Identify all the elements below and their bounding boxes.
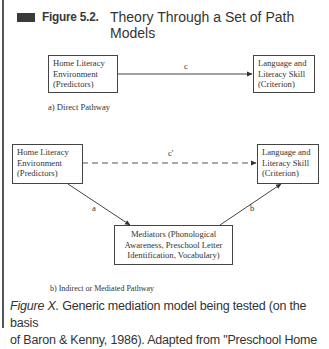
caption-line1: Figure X. Generic mediation model being … [10,298,328,332]
figure-caption: Figure X. Generic mediation model being … [10,298,328,349]
panel-b-caption: b) Indirect or Mediated Pathway [50,284,154,293]
predictor-line: Environment [17,158,78,169]
path-a-label: a [92,203,96,213]
criterion-line: Literacy Skill [258,69,310,80]
path-c-prime-label: c' [168,148,173,158]
criterion-line: (Criterion) [258,79,310,90]
criterion-line: Literacy Skill [262,158,314,169]
mediator-box: Mediators (Phonological Awareness, Presc… [114,225,233,265]
panel-b-criterion-box: Language and Literacy Skill (Criterion) [257,144,319,184]
caption-label: Figure X. [10,299,59,313]
panel-a-predictor-box: Home Literacy Environment (Predictors) [48,55,118,93]
caption-line2: of Baron & Kenny, 1986). Adapted from "P… [10,332,328,349]
predictor-line: Environment [53,69,113,80]
path-a-arrow [68,184,130,225]
path-b-label: b [250,203,254,213]
predictor-line: Home Literacy [53,58,113,69]
panel-b-predictor-box: Home Literacy Environment (Predictors) [12,144,83,184]
path-c-label: c [184,61,188,71]
panel-a-caption: a) Direct Pathway [48,102,110,112]
predictor-line: (Predictors) [53,79,113,90]
predictor-line: (Predictors) [17,168,78,179]
criterion-line: Language and [262,147,314,158]
panel-a-criterion-box: Language and Literacy Skill (Criterion) [253,55,315,93]
mediator-line: Identification, Vocabulary) [119,250,228,261]
mediator-line: Awareness, Preschool Letter [119,240,228,251]
predictor-line: Home Literacy [17,147,78,158]
mediator-line: Mediators (Phonological [119,229,228,240]
criterion-line: Language and [258,58,310,69]
criterion-line: (Criterion) [262,168,314,179]
